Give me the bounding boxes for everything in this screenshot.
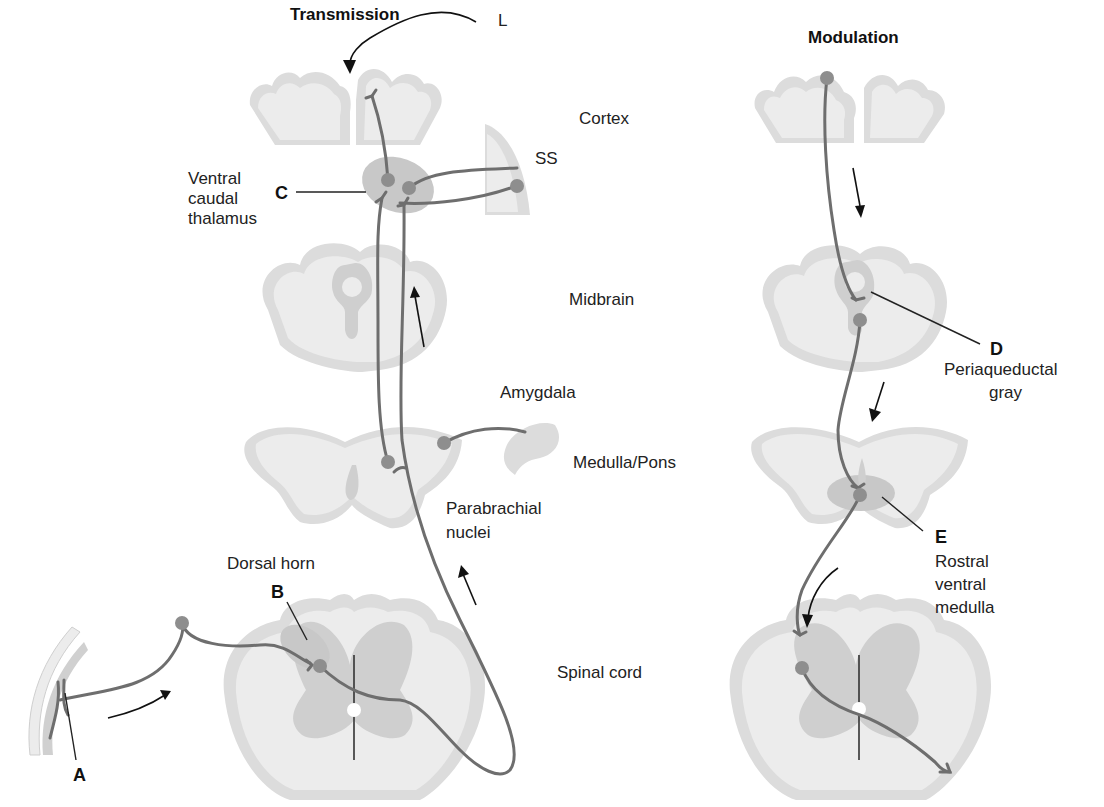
label-thalamus-1: Ventral [188,169,241,188]
label-cortex: Cortex [579,109,630,128]
ventral-caudal-thalamus [354,147,442,223]
label-thalamus-3: thalamus [188,209,257,228]
label-parabrachial-1: Parabrachial [446,499,541,518]
pain-pathway-diagram: Transmission [0,0,1104,807]
label-ss: SS [535,149,558,168]
spinal-cord-modulation [730,594,991,800]
label-D: D [990,339,1003,359]
label-C: C [275,183,288,203]
arrow-right-icon [160,690,171,700]
arrow-down-icon [869,408,881,422]
label-rvm-2: ventral [935,575,986,594]
label-L: L [498,11,507,30]
label-spinal-cord: Spinal cord [557,663,642,682]
medulla-pons-transmission [244,427,462,528]
label-dorsal-horn: Dorsal horn [227,554,315,573]
label-periaqueductal-1: Periaqueductal [944,360,1057,379]
medulla-pons-modulation [751,427,968,528]
modulation-title: Modulation [808,28,899,47]
label-medulla-pons: Medulla/Pons [573,453,676,472]
spinal-cord-transmission [224,594,485,800]
label-A: A [73,765,86,785]
arrow-down-icon [855,205,865,218]
label-midbrain: Midbrain [569,290,634,309]
cortex-modulation [755,75,946,143]
label-rvm-3: medulla [935,598,995,617]
transmission-title: Transmission [290,5,400,24]
label-thalamus-2: caudal [188,189,238,208]
leader-A [65,693,76,760]
label-periaqueductal-2: gray [989,383,1023,402]
label-amygdala: Amygdala [500,383,576,402]
label-B: B [271,582,284,602]
label-E: E [935,527,947,547]
arrow-head-icon [343,60,356,74]
midbrain-transmission [262,243,447,372]
cortex-transmission [250,69,442,145]
label-rvm-1: Rostral [935,552,989,571]
label-parabrachial-2: nuclei [446,523,490,542]
